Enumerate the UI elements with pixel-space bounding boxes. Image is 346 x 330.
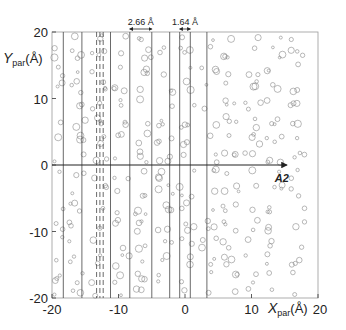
atom-circle — [161, 72, 166, 77]
atom-circle — [53, 293, 56, 296]
atom-circle — [60, 74, 64, 78]
atom-circle — [235, 120, 238, 123]
atom-circle — [246, 72, 252, 78]
atom-circle — [119, 132, 125, 138]
atom-circle — [221, 204, 225, 208]
atom-circle — [227, 134, 231, 138]
atom-circle — [157, 280, 160, 283]
atom-circle — [104, 157, 108, 161]
atom-circle — [155, 186, 162, 193]
atom-circle — [119, 104, 123, 108]
atom-circle — [234, 183, 240, 189]
y-tick-label: 20 — [34, 25, 48, 40]
atom-circle — [158, 50, 163, 55]
atom-circle — [279, 36, 282, 39]
atom-circle — [75, 56, 80, 61]
atom-circle — [72, 255, 75, 258]
atom-circle — [134, 228, 140, 234]
atom-circle — [56, 65, 60, 69]
atom-circle — [295, 50, 299, 54]
atom-circle — [268, 244, 273, 249]
atom-circle — [273, 185, 277, 189]
atom-circle — [135, 245, 142, 252]
atom-circle — [183, 51, 187, 55]
atom-circle — [53, 160, 56, 163]
atom-circle — [208, 44, 213, 49]
atom-circle — [258, 100, 264, 106]
atom-circle — [74, 79, 80, 85]
atom-circle — [296, 168, 299, 171]
atom-circle — [70, 83, 74, 87]
atom-circle — [233, 228, 238, 233]
atom-circle — [297, 257, 303, 263]
atom-circle — [295, 136, 298, 139]
atom-circle — [157, 139, 162, 144]
atom-circle — [209, 262, 213, 266]
atom-circle — [182, 288, 187, 293]
atom-circle — [95, 261, 100, 266]
atom-circle — [244, 101, 247, 104]
atom-circle — [167, 184, 170, 187]
atom-circle — [71, 192, 74, 195]
atom-circle — [290, 88, 297, 95]
atom-circle — [213, 122, 220, 129]
atom-circle — [289, 37, 293, 41]
atom-circle — [255, 35, 261, 41]
y-tick-label: -10 — [29, 225, 48, 240]
atom-circle — [256, 141, 262, 147]
atom-circle — [275, 117, 280, 122]
atom-circle — [163, 240, 166, 243]
atom-circle — [246, 107, 250, 111]
atom-circle — [137, 86, 143, 92]
atom-circle — [222, 220, 226, 224]
atom-circle — [249, 151, 255, 157]
spacing-label: 2.66 Å — [128, 17, 154, 27]
atom-circle — [126, 253, 132, 259]
atom-circle — [271, 83, 276, 88]
atom-circle — [289, 187, 293, 191]
atom-circle — [224, 81, 228, 85]
atom-circle — [90, 237, 97, 244]
atom-circle — [90, 70, 94, 74]
atom-circle — [299, 245, 303, 249]
atom-circle — [171, 192, 174, 195]
atom-circle — [121, 88, 127, 94]
annotations: 2.66 Å1.64 ÅA2 — [52, 17, 289, 184]
atom-circle — [274, 85, 281, 92]
atom-circle — [54, 222, 58, 226]
atom-circle — [223, 114, 229, 120]
atom-circle — [157, 273, 161, 277]
atom-circle — [220, 239, 226, 245]
atom-circle — [138, 287, 144, 293]
atom-circle — [137, 96, 144, 103]
atom-circle — [70, 49, 74, 53]
atom-circle — [73, 123, 80, 130]
atom-circle — [187, 47, 194, 54]
atom-circle — [223, 209, 227, 213]
atom-circle — [212, 188, 218, 194]
atom-circle — [118, 65, 122, 69]
atom-circle — [184, 200, 190, 206]
atom-circle — [250, 207, 255, 212]
atom-circle — [280, 187, 283, 190]
atom-circle — [183, 78, 190, 85]
atom-circle — [161, 258, 164, 261]
atom-circle — [55, 258, 59, 262]
atom-circle — [76, 71, 79, 74]
atom-circle — [184, 222, 188, 226]
atom-circle — [60, 227, 65, 232]
atom-circle — [121, 254, 124, 257]
atom-circle — [205, 218, 210, 223]
atom-circle — [90, 107, 94, 111]
atom-circle — [255, 217, 261, 223]
atom-circle — [293, 224, 299, 230]
atom-circle — [78, 52, 85, 59]
atom-circle — [253, 124, 259, 130]
atom-circle — [226, 246, 231, 251]
atom-circle — [55, 134, 62, 141]
scatter-plot: -20-100102020100-10-20 2.66 Å1.64 ÅA2 Yp… — [0, 0, 346, 330]
atom-circle — [268, 206, 272, 210]
atom-circle — [185, 227, 191, 233]
atom-circle — [302, 220, 306, 224]
atom-circle — [224, 262, 229, 267]
